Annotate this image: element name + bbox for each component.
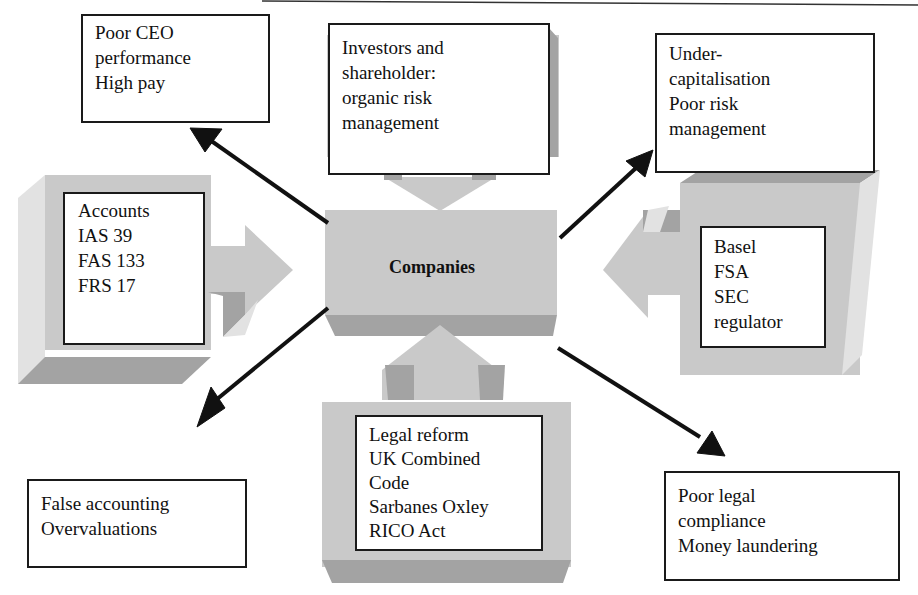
output-box-false-accounting: False accounting Overvaluations (27, 479, 247, 568)
input-box-legal: Legal reform UK Combined Code Sarbanes O… (355, 415, 543, 551)
legal-line-4: Sarbanes Oxley (369, 495, 541, 519)
output-box-ceo: Poor CEO performance High pay (81, 14, 270, 123)
output-box-capital: Under- capitalisation Poor risk manageme… (655, 33, 875, 173)
ceo-line-2: performance (95, 45, 268, 70)
capital-line-3: Poor risk (669, 91, 873, 116)
arrow-to-compliance (558, 348, 700, 437)
legal-line-3: Code (369, 471, 541, 495)
regulators-line-4: regulator (714, 309, 824, 334)
accounts-line-1: Accounts (78, 198, 203, 223)
compliance-line-3: Money laundering (678, 533, 898, 558)
top-rule (262, 1, 918, 5)
input-box-regulators: Basel FSA SEC regulator (700, 226, 826, 348)
ceo-line-1: Poor CEO (95, 20, 268, 45)
input-box-accounts: Accounts IAS 39 FAS 133 FRS 17 (63, 192, 205, 345)
accounts-right-arrow (208, 225, 293, 315)
arrow-head-ceo (190, 128, 222, 152)
investors-line-1: Investors and (342, 35, 548, 60)
regulators-line-1: Basel (714, 234, 824, 259)
capital-line-1: Under- (669, 41, 873, 66)
arrow-head-false-accounting (197, 387, 225, 427)
capital-line-2: capitalisation (669, 66, 873, 91)
legal-line-5: RICO Act (369, 519, 541, 543)
investors-down-arrow (384, 177, 496, 211)
arrow-head-compliance (697, 431, 725, 456)
regulators-line-2: FSA (714, 259, 824, 284)
investors-line-4: management (342, 110, 548, 135)
compliance-line-2: compliance (678, 508, 898, 533)
ceo-line-3: High pay (95, 70, 268, 95)
legal-line-1: Legal reform (369, 423, 541, 447)
accounts-line-3: FAS 133 (78, 248, 203, 273)
input-box-investors: Investors and shareholder: organic risk … (328, 23, 550, 175)
regulators-line-3: SEC (714, 284, 824, 309)
false-accounting-line-1: False accounting (41, 491, 245, 516)
arrow-to-ceo (210, 140, 328, 223)
companies-label: Companies (389, 257, 475, 278)
false-accounting-line-2: Overvaluations (41, 516, 245, 541)
investors-line-3: organic risk (342, 85, 548, 110)
capital-line-4: management (669, 116, 873, 141)
accounts-line-2: IAS 39 (78, 223, 203, 248)
accounts-line-4: FRS 17 (78, 273, 203, 298)
investors-line-2: shareholder: (342, 60, 548, 85)
legal-line-2: UK Combined (369, 447, 541, 471)
arrow-to-capital (560, 168, 636, 238)
compliance-line-1: Poor legal (678, 483, 898, 508)
output-box-compliance: Poor legal compliance Money laundering (664, 471, 900, 581)
